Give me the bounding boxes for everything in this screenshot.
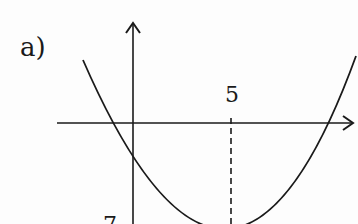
y-tick-label-neg7: 7 — [103, 214, 117, 224]
part-label: a) — [20, 34, 46, 60]
parabola-curve — [83, 56, 356, 224]
figure: a) 5 7 — [0, 0, 358, 224]
graph-canvas — [0, 0, 358, 224]
x-tick-label-5: 5 — [225, 84, 239, 106]
